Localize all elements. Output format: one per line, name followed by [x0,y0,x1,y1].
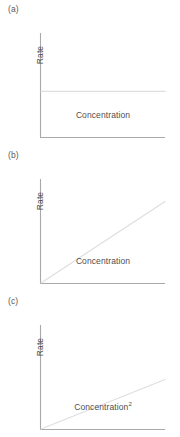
panel-b-x-axis-label: Concentration [40,256,166,266]
panel-c-y-axis-label: Rate [35,320,45,374]
panel-c-plot [0,292,180,437]
panel-b-x-axis-label-text: Concentration [76,256,130,266]
panel-a-y-axis-label: Rate [35,28,45,82]
panel-b-plot [0,146,180,292]
panel-a-plot [0,0,180,146]
panel-c: (c) Rate Concentration2 [0,292,180,437]
kinetics-figure: (a) Rate Concentration (b) Rate Concentr… [0,0,180,437]
panel-b-y-axis-label: Rate [35,174,45,228]
panel-c-x-axis-label-exponent: 2 [128,401,131,407]
panel-b: (b) Rate Concentration [0,146,180,292]
panel-c-x-axis-label: Concentration2 [40,402,166,412]
panel-a: (a) Rate Concentration [0,0,180,146]
panel-a-x-axis-label: Concentration [40,110,166,120]
panel-a-x-axis-label-text: Concentration [76,110,130,120]
panel-b-data-line [41,202,165,283]
panel-c-x-axis-label-text: Concentration [74,402,128,412]
